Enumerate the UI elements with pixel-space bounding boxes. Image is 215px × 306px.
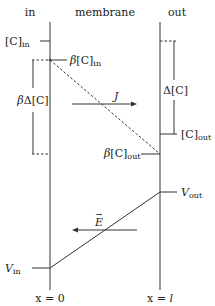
- header-membrane: membrane: [75, 6, 135, 19]
- position-x0: x = 0: [35, 292, 64, 305]
- header-in: in: [25, 6, 36, 19]
- concentration-gradient-line: [50, 60, 160, 154]
- delta-c-label: Δ[C]: [163, 84, 188, 97]
- beta-delta-c-label: βΔ[C]: [16, 94, 48, 107]
- flux-label: J: [112, 90, 119, 103]
- field-arrow-head: [72, 228, 78, 233]
- beta-c-out-label: β[C]out: [103, 147, 141, 161]
- flux-arrow-head: [131, 102, 137, 107]
- v-in-label: Vin: [5, 262, 21, 276]
- position-xl: x = l: [147, 292, 173, 305]
- c-out-label: [C]out: [181, 128, 212, 142]
- header-out: out: [168, 6, 187, 19]
- c-in-label: [C]in: [5, 35, 30, 49]
- membrane-diagram: in membrane out [C]in β[C]in βΔ[C] Δ[C] …: [0, 0, 215, 306]
- beta-c-in-label: β[C]in: [69, 54, 101, 68]
- field-vector-arrow-icon: →: [96, 210, 103, 219]
- v-out-label: Vout: [181, 186, 203, 200]
